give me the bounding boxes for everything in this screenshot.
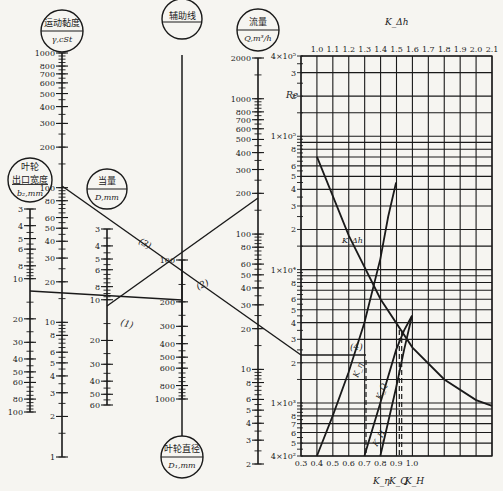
tick-label: 6: [246, 395, 251, 404]
tick-label: 2: [246, 460, 251, 469]
tick-label: 50: [13, 368, 23, 377]
tick-label: 60: [90, 401, 100, 410]
tick-label: 500: [160, 353, 175, 362]
tick-label: 50: [45, 224, 55, 233]
tick-label: 20: [13, 315, 23, 324]
circle-viscosity: 运动黏度γ,cSt: [41, 10, 83, 52]
tick-label: 6: [50, 348, 55, 357]
re-tick-label: 1×10³: [271, 399, 296, 408]
svg-text:Q,m³/h: Q,m³/h: [244, 34, 271, 43]
svg-text:运动黏度: 运动黏度: [44, 17, 80, 28]
tick-label: 800: [160, 382, 175, 391]
kdh-tick-label: 1.3: [358, 45, 371, 54]
tick-label: 400: [40, 103, 55, 112]
circle-equiv-d: 当量D,mm: [87, 169, 127, 209]
tick-label: 200: [236, 189, 251, 198]
tick-label: 20: [90, 336, 100, 345]
tick-label: 3: [18, 205, 23, 214]
tick-label: 3: [50, 389, 55, 398]
re-tick-label: 4: [291, 319, 296, 328]
k-dh-curve-label: K_Δh: [341, 236, 363, 245]
svg-text:辅助线: 辅助线: [169, 10, 196, 21]
re-axis-label: Re: [285, 90, 298, 100]
circle-aux: 辅助线: [162, 0, 202, 39]
tick-label: 20: [45, 278, 55, 287]
re-tick-label: 4: [291, 185, 296, 194]
tick-label: 300: [40, 119, 55, 128]
tick-label: 80: [241, 243, 251, 252]
tick-label: 30: [45, 254, 55, 263]
kdh-tick-label: 1.0: [311, 45, 324, 54]
tick-label: 100: [160, 256, 175, 265]
tick-label: 5: [50, 359, 55, 368]
re-tick-label: 6: [291, 162, 296, 171]
tick-label: 60: [241, 260, 251, 269]
tick-label: 20: [241, 325, 251, 334]
tick-label: 2000: [231, 54, 251, 63]
kdh-tick-label: 1.2: [342, 45, 355, 54]
tick-label: 200: [40, 143, 55, 152]
nomogram-lines: [30, 186, 366, 355]
tick-label: 300: [236, 166, 251, 175]
svg-text:叶轮直径: 叶轮直径: [164, 443, 200, 454]
tick-label: 500: [236, 135, 251, 144]
circle-d1: 叶轮直径D₁,mm: [161, 436, 203, 478]
kdh-tick-label: 1.4: [374, 45, 387, 54]
k-h-axis-label: K_H: [404, 476, 424, 487]
tick-label: 4: [18, 222, 23, 231]
tick-label: 300: [160, 322, 175, 331]
tick-label: 4: [246, 419, 251, 428]
tick-label: 40: [13, 355, 23, 364]
tick-label: 3: [246, 436, 251, 445]
tick-label: 600: [40, 79, 55, 88]
k-tick-label: 0.3: [295, 459, 308, 468]
re-tick-label: 2: [291, 225, 296, 234]
kdh-tick-label: 2.0: [470, 45, 483, 54]
tick-label: 10: [13, 275, 23, 284]
tick-label: 30: [90, 360, 100, 369]
tick-label: 5: [95, 255, 100, 264]
tick-label: 1000: [155, 395, 175, 404]
tick-label: 8: [18, 262, 23, 271]
tick-label: 8: [50, 331, 55, 340]
tick-label: 6: [18, 245, 23, 254]
re-tick-label: 8: [291, 145, 296, 154]
svg-text:D,mm: D,mm: [94, 193, 119, 202]
k-eta-curve-label: K_η: [351, 362, 365, 380]
kdh-tick-label: 1.5: [390, 45, 403, 54]
k-tick-label: 0.4: [310, 459, 323, 468]
re-tick-label: 4×10²: [271, 452, 296, 461]
tick-label: 50: [90, 390, 100, 399]
svg-text:D₁,mm: D₁,mm: [167, 461, 196, 470]
tick-label: 400: [160, 340, 175, 349]
re-tick-label: 5: [291, 172, 296, 181]
correction-curves: [317, 157, 492, 456]
kdh-tick-label: 1.9: [454, 45, 467, 54]
tick-label: 40: [241, 284, 251, 293]
re-tick-label: 3: [291, 202, 296, 211]
tick-label: 400: [236, 149, 251, 158]
tick-label: 600: [236, 125, 251, 134]
curve-k-eta: [317, 183, 396, 457]
tick-label: 60: [13, 378, 23, 387]
labels: 3456810203040506080100100080070060050040…: [8, 17, 499, 487]
tick-label: 5: [246, 406, 251, 415]
tick-label: 600: [160, 364, 175, 373]
svg-text:流量: 流量: [249, 16, 267, 27]
tick-label: 40: [90, 377, 100, 386]
tick-label: 30: [13, 338, 23, 347]
tick-label: 40: [45, 237, 55, 246]
tick-label: 1: [50, 453, 55, 462]
kdh-tick-label: 1.8: [438, 45, 451, 54]
line-4-label: (4): [350, 342, 363, 352]
tick-label: 8: [95, 283, 100, 292]
tick-label: 100: [236, 230, 251, 239]
svg-text:叶轮: 叶轮: [21, 161, 39, 172]
k-q-curve-label: K_Q: [374, 382, 389, 402]
tick-label: 3: [95, 225, 100, 234]
tick-label: 100: [8, 408, 23, 417]
tick-label: 10: [45, 318, 55, 327]
circle-flow: 流量Q,m³/h: [237, 9, 279, 51]
tick-label: 60: [45, 214, 55, 223]
tick-label: 50: [241, 271, 251, 280]
